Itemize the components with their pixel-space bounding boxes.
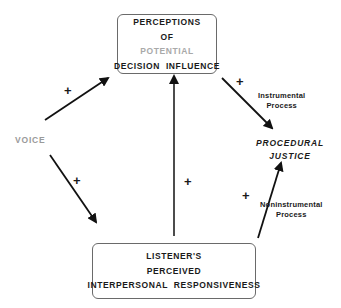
node-line: LISTENER'S <box>146 249 202 264</box>
label-line: Process <box>258 101 305 111</box>
voice-node: VOICE <box>15 135 45 145</box>
node-line: POTENTIAL <box>140 44 194 59</box>
node-line: DECISION INFLUENCE <box>114 59 220 74</box>
perceptions-of-potential-decision-influence-node: PERCEPTIONS OF POTENTIAL DECISION INFLUE… <box>117 14 217 74</box>
listener-perceived-responsiveness-node: LISTENER'S PERCEIVED INTERPERSONAL RESPO… <box>92 243 256 299</box>
node-line: PERCEIVED <box>147 264 202 279</box>
node-line: JUSTICE <box>256 150 324 163</box>
procedural-justice-node: PROCEDURAL JUSTICE <box>256 137 324 163</box>
plus-sign-voice-listener: + <box>73 174 81 187</box>
label-line: Noninstrumental <box>260 200 323 210</box>
node-line: PERCEPTIONS <box>133 15 201 30</box>
node-line: OF <box>160 30 173 45</box>
plus-sign-instrumental: + <box>236 75 244 88</box>
plus-sign-noninstrumental: + <box>242 189 250 202</box>
node-line: INTERPERSONAL RESPONSIVENESS <box>87 278 260 293</box>
arrow-voice-to-perceptions <box>45 78 108 120</box>
node-line: PROCEDURAL <box>256 137 324 150</box>
instrumental-process-label: Instrumental Process <box>258 91 305 111</box>
noninstrumental-process-label: Noninstrumental Process <box>260 200 323 220</box>
label-line: Process <box>260 210 323 220</box>
plus-sign-voice-perceptions: + <box>64 84 72 97</box>
plus-sign-listener-perceptions: + <box>184 175 192 188</box>
label-line: Instrumental <box>258 91 305 101</box>
arrow-voice-to-listener <box>50 155 96 222</box>
